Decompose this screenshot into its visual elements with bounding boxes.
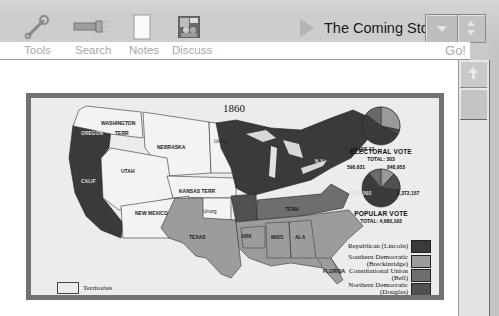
label-unorg-south: Unorg (203, 208, 217, 214)
toolbar-label-bar: Tools Search Notes Discuss Go! (0, 42, 470, 60)
play-icon (300, 19, 314, 37)
notes-label[interactable]: Notes (129, 44, 159, 56)
legend-swatch (411, 240, 431, 253)
label-ny: N.Y. (315, 158, 324, 164)
discuss-button[interactable] (177, 12, 201, 42)
topic-stepper-button[interactable] (457, 14, 486, 43)
popular-caption: POPULAR VOTE (349, 210, 413, 217)
label-kansas: KANSAS TERR (179, 188, 215, 194)
arrow-stem (472, 73, 475, 79)
map-canvas: 1860 (31, 98, 439, 295)
electoral-total: TOTAL: 303 (349, 156, 413, 162)
search-label[interactable]: Search (75, 44, 111, 56)
notepad-icon (133, 14, 151, 40)
label-miss: MISS (271, 234, 283, 240)
arrow-down-icon (467, 30, 475, 35)
popular-bottom-right: 1,372,157 (397, 190, 419, 196)
label-nebraska: NEBRASKA (157, 144, 185, 150)
top-toolbar: The Coming Storm (0, 0, 499, 42)
legend-territories: Territories (57, 282, 112, 294)
legend-label: Constitutional Union (Bell) (338, 268, 408, 282)
legend-swatch (411, 269, 431, 282)
label-ark: ARK (241, 233, 252, 239)
notes-button[interactable] (132, 12, 152, 42)
legend-swatch (411, 255, 431, 268)
label-new-mexico: NEW MEXICO (135, 210, 168, 216)
territories-swatch (57, 282, 79, 294)
legend-label: Northern Democratic (Douglas) (338, 282, 408, 295)
topic-dropdown-button[interactable] (425, 14, 458, 43)
scroll-up-button[interactable] (460, 61, 487, 88)
label-oregon: OREGON (81, 130, 103, 136)
legend-southern-democratic: Southern Democratic (Breckinridge) (338, 254, 431, 268)
flashlight-icon (72, 19, 112, 35)
label-utah: UTAH (121, 168, 135, 174)
popular-total: TOTAL: 4,680,193 (349, 218, 413, 224)
popular-bottom-left: 1,865,593 (349, 190, 371, 196)
discuss-label[interactable]: Discuss (172, 44, 212, 56)
legend-label: Republican (Lincoln) (348, 243, 408, 250)
legend-northern-democratic: Northern Democratic (Douglas) (338, 282, 431, 295)
label-unorg-north: Unorg (214, 138, 228, 144)
legend-swatch (411, 283, 431, 296)
arrow-up-icon (467, 21, 475, 26)
window-right-edge (489, 42, 499, 316)
election-map-1860: 1860 (26, 93, 444, 300)
chevron-down-icon (437, 26, 447, 32)
electoral-caption: ELECTORAL VOTE (349, 148, 413, 155)
label-texas: TEXAS (189, 234, 206, 240)
vertical-scrollbar[interactable] (458, 60, 490, 316)
legend-label: Southern Democratic (Breckinridge) (338, 254, 408, 268)
search-button[interactable] (72, 12, 112, 42)
label-washington-terr: TERR (115, 130, 129, 136)
tools-label[interactable]: Tools (24, 44, 51, 56)
discuss-people-icon (178, 16, 200, 38)
popular-top-right: 848,953 (387, 164, 405, 170)
current-topic-display[interactable]: The Coming Storm (296, 13, 426, 42)
legend-republican: Republican (Lincoln) (348, 240, 431, 253)
label-tenn: TENN (285, 206, 299, 212)
territories-label: Territories (83, 284, 112, 292)
wrench-icon (24, 15, 50, 39)
popular-vote-pie (361, 168, 401, 208)
label-ala: ALA (295, 234, 305, 240)
scroll-thumb[interactable] (460, 89, 487, 120)
go-button[interactable]: Go! (445, 43, 466, 58)
popular-top-left: 590,631 (347, 164, 365, 170)
label-washington: WASHINGTON (101, 120, 135, 126)
label-california: CALIF (81, 178, 96, 184)
tools-button[interactable] (22, 12, 52, 42)
legend-constitutional-union: Constitutional Union (Bell) (338, 268, 431, 282)
electoral-vote-pie (361, 106, 401, 146)
